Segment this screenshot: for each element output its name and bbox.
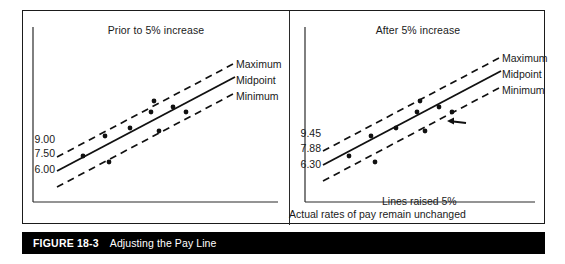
axis-value-midpoint-prior: 7.50	[15, 147, 55, 159]
figure-container: Prior to 5% increase	[0, 0, 565, 264]
axis-value-maximum-prior: 9.00	[15, 133, 55, 145]
data-point	[149, 110, 154, 115]
data-point	[103, 134, 108, 139]
data-point	[107, 160, 112, 165]
raise-arrow-icon	[447, 118, 466, 125]
series-label-maximum-prior: Maximum	[236, 58, 282, 70]
data-point	[369, 134, 374, 139]
line-minimum-after	[323, 87, 501, 181]
figure-plot-frame: Prior to 5% increase	[22, 10, 545, 224]
plot-after-svg	[290, 11, 546, 225]
axis-value-maximum-after: 9.45	[281, 127, 321, 139]
data-point	[347, 154, 352, 159]
panel-prior-to-increase: Prior to 5% increase	[23, 11, 289, 225]
note-actual-rates: Actual rates of pay remain unchanged	[289, 208, 466, 220]
line-maximum-after	[323, 57, 501, 151]
data-point	[394, 126, 399, 131]
data-point	[171, 105, 176, 110]
data-point	[415, 110, 420, 115]
data-point	[418, 99, 423, 104]
scatter-actual-rates-after	[347, 99, 455, 165]
data-point	[152, 99, 157, 104]
data-point	[81, 154, 86, 159]
data-point	[423, 129, 428, 134]
data-point	[437, 105, 442, 110]
axis-value-midpoint-after: 7.88	[281, 142, 321, 154]
series-label-minimum-after: Minimum	[502, 84, 545, 96]
plot-prior-svg	[23, 11, 289, 225]
note-lines-raised: Lines raised 5%	[382, 195, 457, 207]
series-label-maximum-after: Maximum	[502, 52, 548, 64]
figure-caption-title: Adjusting the Pay Line	[110, 237, 217, 249]
series-label-midpoint-prior: Midpoint	[236, 74, 276, 86]
data-point	[184, 110, 189, 115]
scatter-actual-rates-prior	[81, 99, 189, 165]
line-maximum-prior	[57, 63, 235, 157]
data-point	[157, 129, 162, 134]
figure-caption-number: FIGURE 18-3	[33, 237, 99, 249]
axis-value-minimum-after: 6.30	[281, 158, 321, 170]
data-point	[373, 160, 378, 165]
series-label-minimum-prior: Minimum	[236, 90, 279, 102]
data-point	[450, 110, 455, 115]
line-minimum-prior	[57, 93, 235, 187]
data-point	[128, 126, 133, 131]
line-midpoint-after	[323, 71, 501, 165]
series-label-midpoint-after: Midpoint	[502, 68, 542, 80]
figure-caption-bar: FIGURE 18-3 Adjusting the Pay Line	[22, 232, 545, 254]
axis-value-minimum-prior: 6.00	[15, 163, 55, 175]
panel-after-increase: After 5% increase	[290, 11, 546, 225]
